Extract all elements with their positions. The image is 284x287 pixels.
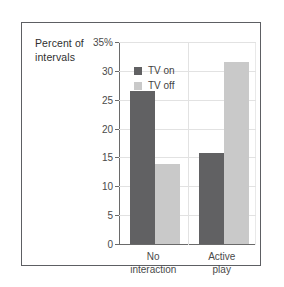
y-tick-mark xyxy=(115,244,119,245)
x-axis-category-label-line: play xyxy=(188,264,257,277)
legend-label: TV on xyxy=(148,65,175,76)
y-tick-label: 20 xyxy=(102,123,113,134)
x-axis-category-label: Nointeraction xyxy=(119,251,188,276)
x-axis-category-label-line: Active xyxy=(188,251,257,264)
y-tick-label: 10 xyxy=(102,181,113,192)
bar xyxy=(155,164,180,244)
legend-item: TV off xyxy=(134,78,175,93)
legend-swatch-icon xyxy=(134,82,142,90)
y-tick-label: 30 xyxy=(102,65,113,76)
y-tick-label: 0 xyxy=(107,239,113,250)
y-tick-mark xyxy=(115,71,119,72)
y-tick-mark xyxy=(115,129,119,130)
y-tick-mark xyxy=(115,215,119,216)
y-tick-mark xyxy=(115,42,119,43)
y-tick-label: 35% xyxy=(93,37,113,48)
x-axis-category-label-line: No xyxy=(119,251,188,264)
chart-frame: Percent of intervals 05101520253035% Noi… xyxy=(21,22,261,266)
bar xyxy=(224,62,249,244)
legend-label: TV off xyxy=(148,80,175,91)
legend-swatch-icon xyxy=(134,67,142,75)
y-tick-mark xyxy=(115,186,119,187)
chart-legend: TV onTV off xyxy=(134,63,175,93)
y-axis-title-line-2: intervals xyxy=(35,51,117,65)
y-tick-label: 5 xyxy=(107,210,113,221)
gridline xyxy=(119,42,256,43)
y-tick-mark xyxy=(115,157,119,158)
y-tick-label: 15 xyxy=(102,152,113,163)
bar xyxy=(130,91,155,244)
x-axis-category-label-line: interaction xyxy=(119,264,188,277)
bar xyxy=(199,153,224,244)
y-tick-label: 25 xyxy=(102,94,113,105)
legend-item: TV on xyxy=(134,63,175,78)
x-axis-category-label: Activeplay xyxy=(188,251,257,276)
y-tick-mark xyxy=(115,100,119,101)
